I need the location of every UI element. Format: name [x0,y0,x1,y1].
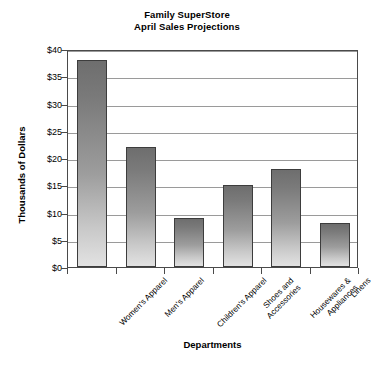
bar [126,147,156,267]
bar [174,218,204,267]
y-tick-label: $30 [26,100,62,110]
x-tick-mark [164,268,165,274]
gridline [68,160,357,161]
gridline [68,215,357,216]
plot-area [67,50,358,268]
gridline [68,78,357,79]
gridline [68,133,357,134]
y-tick-label: $25 [26,127,62,137]
x-tick-mark [261,268,262,274]
y-tick-label: $40 [26,45,62,55]
bar-chart: Family SuperStore April Sales Projection… [0,0,374,370]
y-tick-label: $35 [26,72,62,82]
gridline [68,187,357,188]
chart-title: Family SuperStore April Sales Projection… [0,9,374,33]
x-axis-title: Departments [67,339,358,351]
y-tick-label: $20 [26,154,62,164]
x-category-label-line: Women's Apparel [118,276,169,327]
x-category-label: Linens [349,276,373,300]
y-tick-label: $10 [26,209,62,219]
gridline [68,242,357,243]
gridline [68,106,357,107]
x-tick-mark [67,268,68,274]
gridline [68,51,357,52]
bar [77,60,107,267]
bar [271,169,301,267]
chart-title-line-2: April Sales Projections [0,21,374,33]
x-tick-mark [310,268,311,274]
y-tick-label: $0 [26,263,62,273]
chart-title-line-1: Family SuperStore [0,9,374,21]
y-tick-label: $5 [26,236,62,246]
x-tick-mark [358,268,359,274]
x-tick-mark [116,268,117,274]
x-category-label: Women's Apparel [118,276,170,328]
x-category-label: Housewares &Appliances [309,276,360,327]
bar [223,185,253,267]
y-tick-label: $15 [26,181,62,191]
x-tick-mark [213,268,214,274]
bar [320,223,350,267]
